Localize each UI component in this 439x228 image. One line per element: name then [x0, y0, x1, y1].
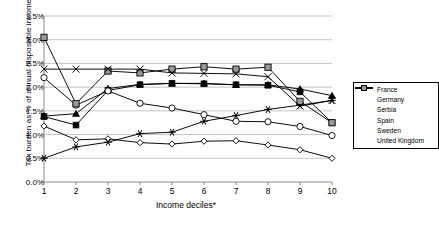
legend-label: Sweden [376, 126, 401, 136]
marker-open-square [73, 101, 79, 107]
marker-filled-square [41, 114, 47, 120]
marker-filled-square [201, 81, 207, 87]
marker-open-square [265, 64, 271, 70]
marker-open-circle [169, 105, 175, 111]
marker-open-diamond [329, 155, 335, 161]
legend-item-spain[interactable]: Spain [356, 116, 436, 126]
marker-filled-square [265, 82, 271, 88]
series-united-kingdom [41, 34, 335, 126]
marker-open-diamond [201, 138, 207, 144]
legend-marker-icon [356, 126, 376, 136]
legend-item-united-kingdom[interactable]: United Kingdom [356, 136, 436, 146]
legend-label: France [376, 85, 398, 95]
legend-marker-icon [356, 95, 376, 105]
marker-filled-square [137, 82, 143, 88]
legend-marker-icon [356, 105, 376, 115]
marker-open-square [201, 64, 207, 70]
marker-filled-square [297, 89, 303, 95]
marker-filled-square [73, 122, 79, 128]
legend-marker-icon [356, 136, 376, 146]
legend-item-germany[interactable]: Germany [356, 95, 436, 105]
legend-label: Serbia [376, 105, 396, 115]
series-france [41, 123, 335, 161]
marker-open-diamond [297, 147, 303, 153]
marker-open-circle [329, 132, 335, 138]
legend-label: Germany [376, 95, 404, 105]
marker-open-diamond [169, 141, 175, 147]
series-line [44, 100, 332, 158]
marker-open-diamond [137, 140, 143, 146]
legend-item-sweden[interactable]: Sweden [356, 126, 436, 136]
marker-open-circle [297, 123, 303, 129]
legend-label: United Kingdom [376, 136, 424, 146]
series-line [44, 126, 332, 158]
legend-label: Spain [376, 116, 394, 126]
legend: FranceGermanySerbiaSpainSwedenUnited Kin… [353, 82, 439, 149]
series-germany [41, 80, 336, 119]
marker-open-square [329, 120, 335, 126]
marker-open-diamond [265, 142, 271, 148]
marker-open-circle [201, 112, 207, 118]
marker-open-diamond [73, 137, 79, 143]
marker-open-circle [41, 75, 47, 81]
marker-open-square [41, 34, 47, 40]
marker-open-circle [137, 100, 143, 106]
series-line [44, 37, 332, 122]
marker-open-circle [105, 88, 111, 94]
marker-open-circle [233, 118, 239, 124]
legend-marker-icon [356, 116, 376, 126]
marker-open-diamond [41, 123, 47, 129]
marker-filled-square [169, 80, 175, 86]
legend-item-serbia[interactable]: Serbia [356, 105, 436, 115]
marker-open-square [362, 86, 367, 91]
marker-open-diamond [105, 136, 111, 142]
marker-filled-square [233, 82, 239, 88]
marker-open-circle [265, 119, 271, 125]
marker-open-diamond [233, 138, 239, 144]
